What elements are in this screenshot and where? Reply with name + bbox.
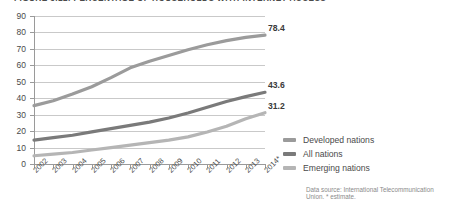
legend-item: All nations <box>283 147 443 161</box>
y-axis-label: 90 <box>4 12 26 20</box>
series-lines <box>34 16 265 164</box>
legend-item: Emerging nations <box>283 161 443 175</box>
figure-container: FIGURE 3.12. PERCENTAGE OF HOUSEHOLDS WI… <box>0 0 450 213</box>
y-axis-label: 40 <box>4 94 26 102</box>
series-end-label: 78.4 <box>268 24 285 33</box>
y-axis-label: 10 <box>4 144 26 152</box>
legend-swatch-icon <box>283 138 296 142</box>
y-axis-label: 0 <box>4 160 26 168</box>
figure-title: FIGURE 3.12. PERCENTAGE OF HOUSEHOLDS WI… <box>14 0 444 3</box>
y-axis-label: 50 <box>4 78 26 86</box>
x-axis-label: 2014* <box>263 155 283 175</box>
y-axis-label: 80 <box>4 28 26 36</box>
series-end-label: 31.2 <box>268 102 285 111</box>
chart-legend: Developed nationsAll nationsEmerging nat… <box>283 133 443 175</box>
series-line <box>34 35 265 106</box>
y-axis-label: 20 <box>4 127 26 135</box>
series-line <box>34 92 265 140</box>
y-axis-label: 70 <box>4 45 26 53</box>
source-note: Data source: International Telecommunica… <box>306 186 448 201</box>
legend-label: Developed nations <box>303 135 374 145</box>
legend-label: Emerging nations <box>303 163 370 173</box>
plot-area <box>34 16 265 164</box>
legend-swatch-icon <box>283 166 296 170</box>
y-axis-label: 30 <box>4 111 26 119</box>
legend-label: All nations <box>303 149 343 159</box>
legend-item: Developed nations <box>283 133 443 147</box>
y-axis-label: 60 <box>4 61 26 69</box>
series-end-label: 43.6 <box>268 81 285 90</box>
legend-swatch-icon <box>283 152 296 156</box>
